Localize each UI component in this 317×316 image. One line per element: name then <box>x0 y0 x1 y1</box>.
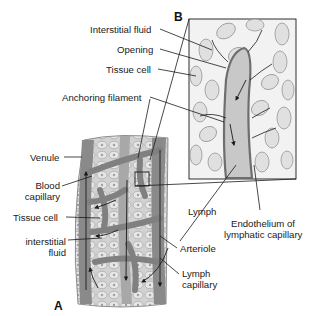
label-lymph-capillary: Lymph capillary <box>182 268 217 290</box>
label-tissue-cell-b: Tissue cell <box>106 64 151 75</box>
label-interstitial-fluid-a-line2: fluid <box>14 247 66 258</box>
label-venule: Venule <box>30 152 59 163</box>
label-lymph-capillary-line1: Lymph <box>182 268 217 279</box>
label-tissue-cell-a: Tissue cell <box>13 212 58 223</box>
label-interstitial-fluid-a-line1: interstitial <box>14 236 66 247</box>
label-endothelium: Endothelium of lymphatic capillary <box>224 218 302 240</box>
label-interstitial-fluid-b: Interstitial fluid <box>90 24 151 35</box>
label-endothelium-line2: lymphatic capillary <box>224 229 302 240</box>
label-blood-capillary-line2: capillary <box>18 191 60 202</box>
panel-a-tissue <box>75 135 168 307</box>
panel-a-letter: A <box>54 299 63 313</box>
label-endothelium-line1: Endothelium of <box>224 218 302 229</box>
label-lymph: Lymph <box>188 206 216 217</box>
label-blood-capillary-line1: Blood <box>18 180 60 191</box>
label-lymph-capillary-line2: capillary <box>182 279 217 290</box>
panel-b-magnified <box>189 19 296 179</box>
label-opening: Opening <box>117 44 153 55</box>
label-interstitial-fluid-a: interstitial fluid <box>14 236 66 258</box>
label-blood-capillary: Blood capillary <box>18 180 60 202</box>
lymphatic-capillary-diagram: B A Interstitial fluid Opening Tissue ce… <box>0 0 317 316</box>
panel-b-letter: B <box>174 10 183 24</box>
label-arteriole: Arteriole <box>180 243 216 254</box>
label-anchoring-filament: Anchoring filament <box>62 92 141 103</box>
